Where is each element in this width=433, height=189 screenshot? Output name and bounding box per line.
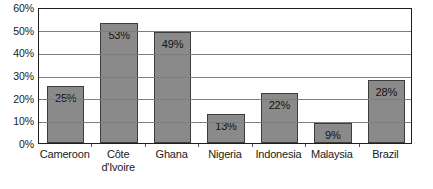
gridline xyxy=(39,31,411,32)
bar-value-label: 9% xyxy=(315,129,350,141)
x-axis-tick-mark xyxy=(91,144,92,147)
x-axis-tick-mark xyxy=(145,144,146,147)
y-axis-tick-label: 10% xyxy=(13,115,34,127)
y-axis-tick-label: 40% xyxy=(13,47,34,59)
bar: 13% xyxy=(207,114,244,143)
x-axis-tick-mark xyxy=(198,144,199,147)
plot-area: 25%53%49%13%22%9%28% xyxy=(38,8,412,144)
y-axis: 0%10%20%30%40%50%60% xyxy=(0,8,36,144)
gridline xyxy=(39,122,411,123)
y-axis-tick-label: 30% xyxy=(13,70,34,82)
gridline xyxy=(39,54,411,55)
bar: 28% xyxy=(368,80,405,143)
y-axis-tick-label: 20% xyxy=(13,93,34,105)
bar-value-label: 28% xyxy=(369,86,404,98)
bar: 22% xyxy=(261,93,298,143)
x-axis-tick-mark xyxy=(305,144,306,147)
x-axis-category-label: Brazil xyxy=(352,148,418,161)
bar: 49% xyxy=(154,32,191,143)
bar: 9% xyxy=(314,123,351,143)
bar: 25% xyxy=(47,86,84,143)
x-axis-tick-mark xyxy=(359,144,360,147)
y-axis-tick-label: 50% xyxy=(13,25,34,37)
gridline xyxy=(39,77,411,78)
bar: 53% xyxy=(100,23,137,143)
gridline xyxy=(39,99,411,100)
bar-value-label: 49% xyxy=(155,38,190,50)
y-axis-tick-label: 60% xyxy=(13,2,34,14)
bar-chart: 0%10%20%30%40%50%60% 25%53%49%13%22%9%28… xyxy=(0,0,433,189)
bar-value-label: 22% xyxy=(262,99,297,111)
x-axis-tick-mark xyxy=(252,144,253,147)
x-axis-category-labels: CameroonCôte d'IvoireGhanaNigeriaIndones… xyxy=(38,148,412,189)
